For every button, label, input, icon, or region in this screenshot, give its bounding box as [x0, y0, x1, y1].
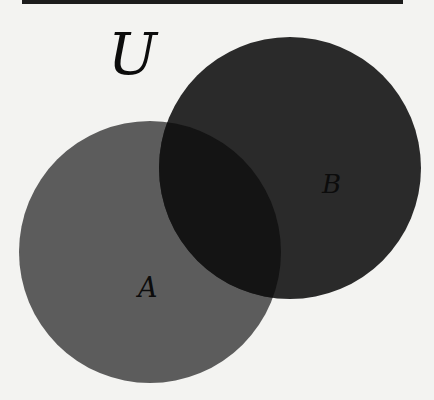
universe-label: U: [108, 20, 159, 88]
set-b-label: B: [321, 169, 341, 199]
venn-diagram: U B A: [0, 0, 434, 400]
set-a-label: A: [135, 272, 158, 303]
